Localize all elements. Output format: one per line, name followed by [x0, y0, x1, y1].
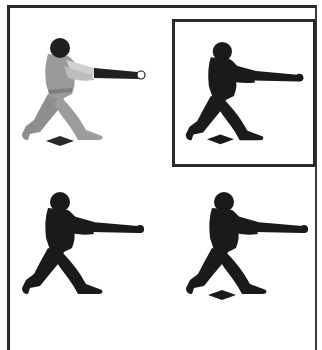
- batter-silhouette-icon: [14, 190, 154, 302]
- batter-silhouette-icon: [178, 190, 318, 302]
- silhouette-batter-plate-panel: [178, 38, 313, 150]
- color-batter-icon: [14, 36, 154, 148]
- silhouette-batter-plate-panel-2: [178, 190, 318, 302]
- color-batter-panel: [14, 36, 154, 148]
- silhouette-batter-panel: [14, 190, 154, 302]
- batter-silhouette-icon: [178, 38, 313, 150]
